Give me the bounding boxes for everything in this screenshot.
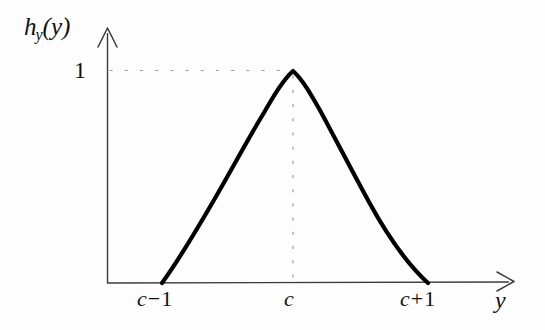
- y-axis-label-close-paren: ): [62, 13, 70, 40]
- y-axis-label-argument: y: [51, 13, 62, 40]
- x-axis-tick-label-c-plus-1: c+1: [400, 288, 435, 310]
- x-tick-c-minus-1-base: c: [137, 286, 147, 311]
- x-tick-c-minus-1-number: 1: [161, 286, 172, 311]
- plot-canvas: [0, 0, 545, 330]
- x-tick-c-minus-1-operator: −: [147, 286, 161, 311]
- y-axis-label-open-paren: (: [43, 13, 51, 40]
- x-tick-c-plus-1-number: 1: [424, 286, 435, 311]
- y-axis-label-subscript: y: [36, 27, 43, 43]
- figure-container: hy(y) 1 c−1 c c+1 y: [0, 0, 545, 330]
- x-axis-line: [107, 282, 509, 283]
- x-tick-c-plus-1-operator: +: [410, 286, 424, 311]
- y-axis-label: hy(y): [24, 14, 70, 43]
- x-axis-tick-label-c-minus-1: c−1: [137, 288, 172, 310]
- x-tick-c-plus-1-base: c: [400, 286, 410, 311]
- y-axis-tick-label-one: 1: [74, 58, 86, 82]
- x-axis-tick-label-c: c: [284, 288, 294, 310]
- curve-h-y: [162, 71, 428, 283]
- x-axis-label: y: [495, 288, 506, 312]
